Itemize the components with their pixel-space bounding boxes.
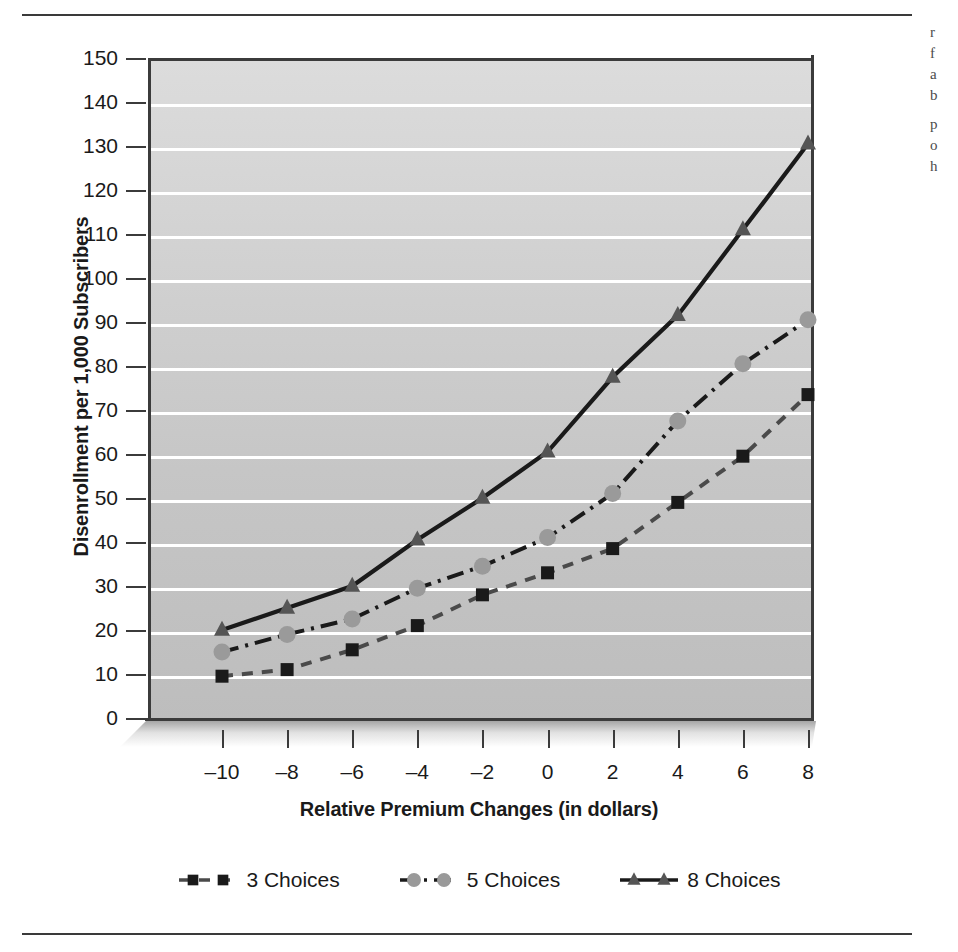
legend-item-label: 3 Choices — [246, 868, 339, 892]
bleed-text-line: o — [930, 135, 958, 156]
series-plot-lines — [148, 58, 810, 718]
data-point-marker — [346, 643, 359, 656]
y-axis-tick — [126, 586, 146, 588]
x-axis-tick — [222, 730, 224, 748]
data-point-marker — [474, 558, 491, 575]
x-axis-tick-label: 8 — [773, 760, 843, 784]
legend-item-label: 5 Choices — [467, 868, 560, 892]
bleed-text-line: f — [930, 43, 958, 64]
x-axis-tick-label: 0 — [513, 760, 583, 784]
data-point-marker — [669, 413, 686, 430]
plot-base-shadow — [120, 721, 816, 747]
x-axis-tick — [352, 730, 354, 748]
y-axis-tick-label: 60 — [40, 442, 118, 466]
legend-swatch-icon — [618, 871, 680, 889]
y-axis-tick-label: 140 — [40, 90, 118, 114]
y-axis-tick — [126, 542, 146, 544]
data-point-marker — [541, 566, 554, 579]
y-axis-tick-label: 50 — [40, 486, 118, 510]
x-axis-tick — [613, 730, 615, 748]
data-point-marker — [214, 644, 231, 661]
data-point-marker — [476, 588, 489, 601]
legend-item-2[interactable]: 5 Choices — [398, 868, 560, 892]
series-3 — [214, 135, 816, 636]
x-axis-tick-label: –4 — [382, 760, 452, 784]
y-axis-tick — [126, 410, 146, 412]
x-axis-tick-label: –8 — [252, 760, 322, 784]
y-axis-tick — [126, 58, 146, 60]
bleed-text-line: r — [930, 22, 958, 43]
data-point-marker — [411, 619, 424, 632]
chart-figure: Disenrollment per 1,000 Subscribers 0102… — [0, 0, 915, 952]
x-axis-tick-label: –2 — [447, 760, 517, 784]
legend-swatch-icon — [177, 871, 239, 889]
y-axis-tick-label: 40 — [40, 530, 118, 554]
x-axis-tick-label: –10 — [187, 760, 257, 784]
y-axis-tick — [126, 674, 146, 676]
y-axis-tick-label: 110 — [40, 222, 118, 246]
y-axis-title: Disenrollment per 1,000 Subscribers — [70, 67, 93, 707]
legend-item-label: 8 Choices — [687, 868, 780, 892]
data-point-marker — [671, 496, 684, 509]
y-axis-tick — [126, 234, 146, 236]
data-point-marker — [606, 542, 619, 555]
y-axis-tick-label: 120 — [40, 178, 118, 202]
y-axis-tick — [126, 630, 146, 632]
series-1 — [216, 388, 815, 683]
x-axis-tick — [743, 730, 745, 748]
plot-right-edge — [811, 55, 814, 721]
y-axis-tick — [126, 322, 146, 324]
y-axis-tick — [126, 718, 146, 720]
y-axis-tick-label: 30 — [40, 574, 118, 598]
y-axis-tick-label: 130 — [40, 134, 118, 158]
legend-swatch-icon — [398, 871, 460, 889]
y-axis-tick-label: 80 — [40, 354, 118, 378]
data-point-marker — [734, 355, 751, 372]
data-point-marker — [409, 580, 426, 597]
data-point-marker — [344, 611, 361, 628]
bleed-text-line: p — [930, 114, 958, 135]
bleed-text-line: h — [930, 156, 958, 177]
x-axis-tick — [808, 730, 810, 748]
bleed-text-line: a — [930, 64, 958, 85]
data-point-marker — [281, 663, 294, 676]
x-axis-tick-label: –6 — [317, 760, 387, 784]
x-axis-tick — [417, 730, 419, 748]
legend-item-1[interactable]: 3 Choices — [177, 868, 339, 892]
adjacent-text-column-bleed: rfabpoh — [930, 22, 958, 262]
x-axis-tick-label: 4 — [643, 760, 713, 784]
y-axis-tick — [126, 454, 146, 456]
x-axis-tick — [678, 730, 680, 748]
y-axis-tick-label: 20 — [40, 618, 118, 642]
data-point-marker — [802, 388, 815, 401]
data-point-marker — [216, 670, 229, 683]
x-axis-tick — [548, 730, 550, 748]
y-axis-tick-label: 150 — [40, 46, 118, 70]
y-axis-tick — [126, 278, 146, 280]
y-axis-tick — [126, 366, 146, 368]
x-axis-tick-label: 6 — [708, 760, 778, 784]
y-axis-tick — [126, 498, 146, 500]
x-axis-tick — [482, 730, 484, 748]
data-point-marker — [736, 450, 749, 463]
data-point-marker — [279, 626, 296, 643]
series-2 — [214, 311, 817, 660]
y-axis-tick-label: 90 — [40, 310, 118, 334]
plot-bottom-edge — [145, 718, 814, 721]
y-axis-tick-label: 10 — [40, 662, 118, 686]
y-axis-tick-label: 0 — [40, 706, 118, 730]
y-axis-tick — [126, 146, 146, 148]
legend-item-3[interactable]: 8 Choices — [618, 868, 780, 892]
y-axis-tick-label: 100 — [40, 266, 118, 290]
x-axis-tick-label: 2 — [578, 760, 648, 784]
x-axis-tick — [287, 730, 289, 748]
data-point-marker — [604, 485, 621, 502]
y-axis-tick — [126, 102, 146, 104]
data-point-marker — [539, 529, 556, 546]
data-point-marker — [800, 311, 817, 328]
bleed-text-line: b — [930, 85, 958, 106]
chart-legend: 3 Choices5 Choices8 Choices — [148, 868, 810, 892]
y-axis-tick — [126, 190, 146, 192]
y-axis-tick-label: 70 — [40, 398, 118, 422]
x-axis-title: Relative Premium Changes (in dollars) — [148, 798, 810, 821]
